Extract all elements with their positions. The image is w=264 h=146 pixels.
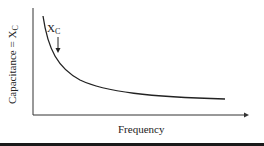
annotation-arrowhead bbox=[56, 48, 61, 53]
xc-annotation-subscript: C bbox=[55, 27, 60, 36]
capacitive-reactance-curve bbox=[43, 16, 225, 99]
x-axis-label: Frequency bbox=[118, 123, 164, 135]
xc-annotation-main: X bbox=[47, 22, 55, 34]
y-axis-label: Capacitance = XC bbox=[6, 25, 20, 104]
bottom-border-bar bbox=[0, 143, 264, 146]
x-axis-arrowhead bbox=[244, 113, 249, 118]
xc-annotation: XC bbox=[47, 22, 60, 36]
y-axis-label-main: Capacitance = X bbox=[6, 31, 18, 104]
y-axis-label-subscript: C bbox=[11, 25, 20, 30]
